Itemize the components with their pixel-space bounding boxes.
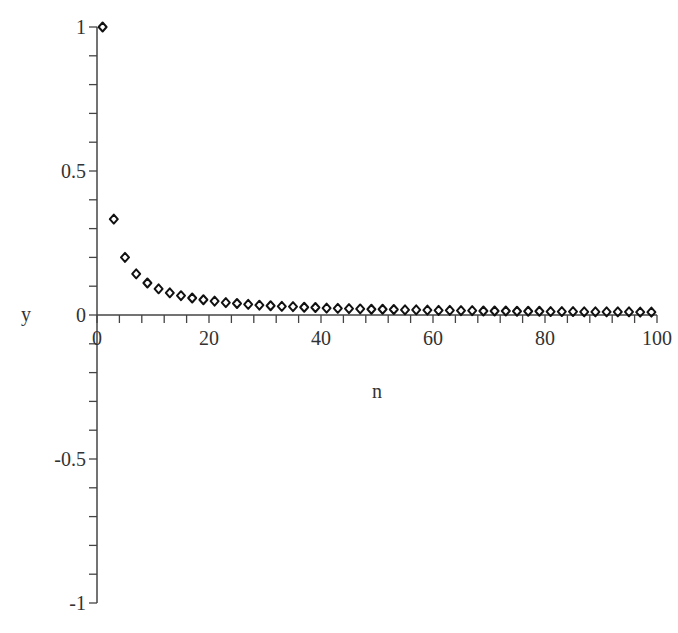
data-point-marker xyxy=(143,279,151,288)
data-point-marker xyxy=(390,305,398,314)
data-point-marker xyxy=(367,305,375,314)
data-point-marker xyxy=(379,305,387,314)
data-point-marker xyxy=(199,295,207,304)
x-tick-label: 60 xyxy=(423,327,443,349)
data-point-marker xyxy=(188,294,196,303)
x-tick-label: 100 xyxy=(642,327,672,349)
data-point-marker xyxy=(502,306,510,315)
axes: 02040608010010.50-0.5-1 xyxy=(54,16,672,614)
data-point-marker xyxy=(222,298,230,307)
x-tick-label: 0 xyxy=(92,327,102,349)
data-point-marker xyxy=(255,301,263,310)
data-point-marker xyxy=(491,306,499,315)
data-point-marker xyxy=(457,306,465,315)
data-point-marker xyxy=(99,23,107,32)
data-point-marker xyxy=(435,306,443,315)
data-point-marker xyxy=(311,303,319,312)
data-point-marker xyxy=(446,306,454,315)
y-tick-label: -1 xyxy=(69,592,86,614)
data-point-marker xyxy=(121,253,129,262)
y-tick-label: 1 xyxy=(76,16,86,38)
data-point-marker xyxy=(166,288,174,297)
data-point-marker xyxy=(412,305,420,314)
y-tick-label: 0 xyxy=(76,304,86,326)
data-point-marker xyxy=(334,304,342,313)
y-axis-label: y xyxy=(21,303,31,326)
x-tick-label: 80 xyxy=(535,327,555,349)
data-point-marker xyxy=(132,269,140,278)
data-point-marker xyxy=(356,304,364,313)
data-point-marker xyxy=(479,306,487,315)
data-point-marker xyxy=(289,302,297,311)
data-point-marker xyxy=(423,306,431,315)
data-point-marker xyxy=(233,299,241,308)
data-point-marker xyxy=(300,303,308,312)
scatter-plot: 02040608010010.50-0.5-1 n y xyxy=(0,0,678,633)
data-point-marker xyxy=(177,291,185,300)
data-point-marker xyxy=(155,284,163,293)
data-points xyxy=(99,23,656,317)
data-point-marker xyxy=(323,304,331,313)
data-point-marker xyxy=(267,301,275,310)
data-point-marker xyxy=(468,306,476,315)
data-point-marker xyxy=(278,302,286,311)
y-tick-label: 0.5 xyxy=(61,160,86,182)
data-point-marker xyxy=(345,304,353,313)
data-point-marker xyxy=(401,305,409,314)
data-point-marker xyxy=(211,297,219,306)
data-point-marker xyxy=(110,215,118,224)
x-axis-label: n xyxy=(372,380,382,402)
x-tick-label: 40 xyxy=(311,327,331,349)
y-tick-label: -0.5 xyxy=(54,448,86,470)
x-tick-label: 20 xyxy=(199,327,219,349)
data-point-marker xyxy=(244,300,252,309)
